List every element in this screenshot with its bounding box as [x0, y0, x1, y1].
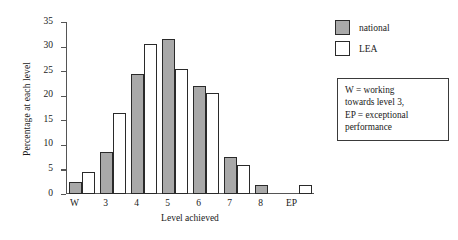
note-line: towards level 3, — [345, 96, 442, 108]
bar-chart-figure: Percentage at each level 05101520253035 … — [0, 0, 458, 240]
bar-lea-ep — [299, 185, 312, 194]
legend-item-lea: LEA — [335, 38, 390, 59]
bar-national-3 — [100, 152, 113, 194]
bar-national-4 — [131, 74, 144, 194]
note-line: EP = exceptional — [345, 109, 442, 121]
bar-group — [255, 22, 281, 194]
y-tick-label: 25 — [44, 65, 54, 75]
bar-national-8 — [255, 185, 268, 194]
bar-national-6 — [193, 86, 206, 194]
bar-lea-6 — [206, 93, 219, 194]
note-box: W = workingtowards level 3,EP = exceptio… — [337, 78, 449, 141]
y-tick-label: 15 — [44, 114, 54, 124]
bar-lea-5 — [175, 69, 188, 194]
bar-lea-3 — [113, 113, 126, 194]
legend-item-national: national — [335, 17, 390, 38]
y-tick-label: 30 — [44, 40, 54, 50]
bar-lea-w — [82, 172, 95, 194]
y-axis-title: Percentage at each level — [22, 19, 32, 199]
bar-group — [162, 22, 188, 194]
y-tick-label: 5 — [48, 163, 53, 173]
bar-national-w — [69, 182, 82, 194]
bar-lea-4 — [144, 44, 157, 194]
y-tick-label: 35 — [44, 16, 54, 26]
legend-swatch-lea — [335, 41, 350, 56]
legend-swatch-national — [335, 20, 350, 35]
y-tick: 0 — [61, 194, 66, 195]
note-line: W = working — [345, 84, 442, 96]
y-tick-label: 20 — [44, 89, 54, 99]
bar-national-7 — [224, 157, 237, 194]
bar-lea-7 — [237, 165, 250, 194]
y-tick-label: 10 — [44, 138, 54, 148]
plot-area: 05101520253035 W345678EP — [66, 22, 314, 194]
bar-group — [224, 22, 250, 194]
legend-label: national — [359, 23, 390, 33]
note-line: performance — [345, 121, 442, 133]
bar-group — [193, 22, 219, 194]
x-axis-title: Level achieved — [66, 213, 314, 223]
bar-group — [286, 22, 312, 194]
y-tick-label: 0 — [48, 188, 53, 198]
bar-group — [131, 22, 157, 194]
x-tick-label: EP — [272, 198, 312, 208]
bar-group — [69, 22, 95, 194]
bar-series-container — [66, 22, 314, 194]
legend-label: LEA — [359, 44, 377, 54]
bar-national-5 — [162, 39, 175, 194]
chart-legend: nationalLEA — [335, 17, 390, 59]
bar-group — [100, 22, 126, 194]
